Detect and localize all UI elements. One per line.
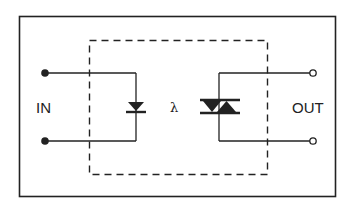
triac-icon	[200, 100, 240, 113]
input-terminal-top[interactable]	[41, 69, 49, 77]
led-diode-icon	[126, 102, 146, 112]
output-label: OUT	[292, 99, 324, 116]
input-terminal-bottom[interactable]	[41, 137, 49, 145]
optocoupler-diagram: IN OUT λ	[0, 0, 357, 206]
input-label: IN	[36, 99, 51, 116]
input-circuit	[41, 69, 146, 145]
light-lambda-label: λ	[170, 100, 178, 115]
output-terminal-top[interactable]	[310, 70, 316, 76]
isolation-boundary	[90, 41, 268, 175]
output-terminal-bottom[interactable]	[310, 138, 316, 144]
